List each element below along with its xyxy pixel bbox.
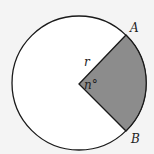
circle-sector-figure: A B r n°: [0, 0, 154, 154]
point-a-label: A: [129, 21, 139, 35]
angle-label: n°: [84, 78, 98, 92]
point-b-label: B: [130, 132, 140, 146]
diagram-canvas: A B r n°: [0, 0, 154, 154]
